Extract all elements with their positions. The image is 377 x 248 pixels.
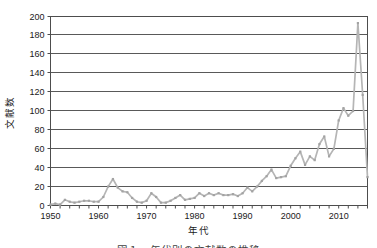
svg-text:200: 200: [29, 12, 44, 22]
gridlines: [51, 17, 368, 187]
svg-text:1990: 1990: [233, 211, 253, 221]
line-chart-canvas: 0204060801001201401601802001950196019701…: [0, 0, 377, 240]
svg-text:2010: 2010: [329, 211, 349, 221]
figure-caption: 図１ 年代別の文献数の推移: [0, 242, 377, 248]
svg-text:1950: 1950: [40, 211, 60, 221]
svg-text:140: 140: [29, 68, 44, 78]
svg-text:180: 180: [29, 30, 44, 40]
svg-text:20: 20: [34, 182, 44, 192]
svg-text:2000: 2000: [281, 211, 301, 221]
svg-text:120: 120: [29, 87, 44, 97]
y-axis-title: 文献数: [2, 90, 16, 134]
svg-text:100: 100: [29, 106, 44, 116]
svg-text:160: 160: [29, 49, 44, 59]
svg-text:0: 0: [39, 201, 44, 211]
svg-text:80: 80: [34, 125, 44, 135]
svg-text:40: 40: [34, 163, 44, 173]
x-axis-title: 年代: [0, 223, 377, 237]
series-line: [51, 23, 368, 204]
svg-text:1980: 1980: [185, 211, 205, 221]
svg-text:60: 60: [34, 144, 44, 154]
axis-tick-labels: 0204060801001201401601802001950196019701…: [29, 12, 348, 221]
axis-ticks: [48, 17, 368, 209]
chart-figure: 0204060801001201401601802001950196019701…: [0, 0, 377, 248]
svg-text:1970: 1970: [137, 211, 157, 221]
svg-text:1960: 1960: [89, 211, 109, 221]
series-markers: [49, 22, 368, 206]
